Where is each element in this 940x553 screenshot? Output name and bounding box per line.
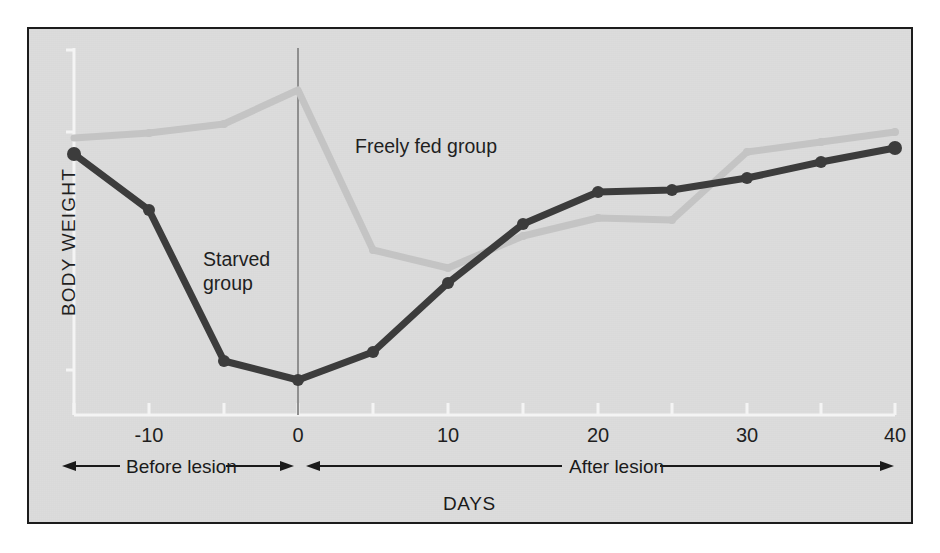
x-axis	[74, 403, 895, 415]
series-label-freely-fed: Freely fed group	[355, 135, 497, 159]
figure-container: BODY WEIGHT -10 0 10 20 30 40 Starved gr…	[0, 0, 940, 553]
x-tick-label-0: 0	[268, 424, 328, 447]
series-starved	[67, 141, 902, 386]
series-label-starved: Starved group	[203, 248, 270, 296]
x-tick-label-20: 20	[568, 424, 628, 447]
region-label-after-lesion: After lesion	[569, 456, 664, 478]
x-tick-label-40: 40	[865, 424, 925, 447]
x-tick-label-10: 10	[418, 424, 478, 447]
x-axis-title: DAYS	[443, 493, 496, 515]
x-tick-label-30: 30	[717, 424, 777, 447]
x-tick-label-minus10: -10	[119, 424, 179, 447]
region-label-before-lesion: Before lesion	[126, 456, 237, 478]
y-axis-title: BODY WEIGHT	[58, 168, 80, 316]
series-freely-fed	[74, 90, 899, 272]
